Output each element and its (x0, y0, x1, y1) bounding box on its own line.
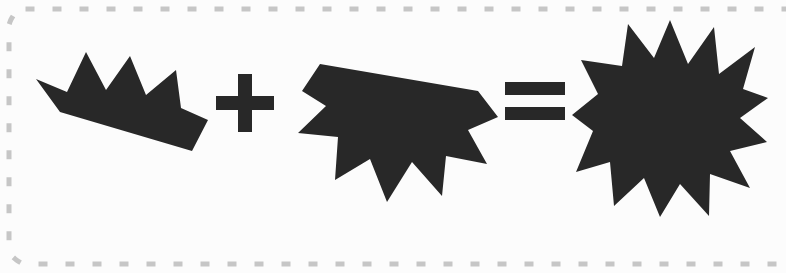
crown-shape: Crown (30, 46, 215, 156)
lower-star-shape-label: Lower star (292, 204, 293, 205)
star-shape-label: Star (570, 218, 571, 219)
crown-shape-glyph (30, 46, 215, 156)
equals-icon (500, 70, 570, 132)
crown-shape-label: Crown (30, 156, 31, 157)
shape-equation-panel: Crown + Lower star = (0, 0, 786, 273)
star-shape-glyph (570, 18, 770, 218)
lower-star-shape: Lower star (292, 44, 502, 204)
equals-operator: = (500, 70, 570, 132)
equation-row: Crown + Lower star = (0, 0, 786, 273)
plus-operator: + (210, 68, 280, 138)
lower-star-shape-glyph (292, 44, 502, 204)
star-shape: Star (570, 18, 770, 218)
plus-icon (210, 68, 280, 138)
